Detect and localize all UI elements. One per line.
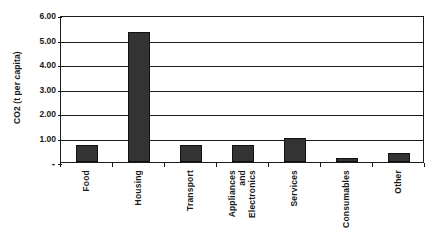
y-axis-tick-labels: -1.002.003.004.005.006.00	[24, 0, 56, 240]
category-label-line: Housing	[133, 170, 143, 205]
category-axis-tick-mark	[372, 163, 373, 167]
bar-slot	[321, 17, 373, 162]
category-axis-tick-mark	[164, 163, 165, 167]
bar-slot	[165, 17, 217, 162]
y-axis-tick-label: 2.00	[24, 109, 56, 119]
category-label-line: Electronics	[247, 170, 257, 218]
bars-layer	[61, 17, 423, 162]
category-label: Housing	[133, 170, 143, 238]
bar[interactable]	[388, 153, 410, 162]
category-label: AppliancesandElectronics	[227, 170, 257, 238]
y-axis-tick-label: 1.00	[24, 134, 56, 144]
bar-slot	[217, 17, 269, 162]
bar-slot	[113, 17, 165, 162]
category-axis-tick-mark	[60, 163, 61, 167]
bar[interactable]	[284, 138, 306, 163]
y-axis-tick-label: 5.00	[24, 36, 56, 46]
category-label-line: Services	[289, 170, 299, 207]
bar[interactable]	[76, 145, 98, 162]
category-axis-tick-marks	[60, 163, 424, 168]
category-label: Services	[289, 170, 299, 238]
bar[interactable]	[232, 145, 254, 162]
category-axis-tick-mark	[320, 163, 321, 167]
category-label-line: Transport	[185, 170, 195, 211]
category-label: Transport	[185, 170, 195, 238]
plot-area	[60, 16, 424, 163]
category-label-line: Food	[81, 170, 91, 192]
bar[interactable]	[180, 145, 202, 162]
category-label-line: and	[237, 170, 247, 186]
category-label: Consumables	[341, 170, 351, 238]
category-label: Other	[393, 170, 403, 238]
bar[interactable]	[128, 32, 150, 162]
y-axis-tick-label: -	[23, 158, 56, 169]
category-axis-tick-mark	[112, 163, 113, 167]
y-axis-tick-label: 3.00	[24, 85, 56, 95]
bar-slot	[269, 17, 321, 162]
bar-chart-figure: CO2 (t per capita) -1.002.003.004.005.00…	[0, 0, 436, 240]
bar[interactable]	[336, 158, 358, 162]
y-axis-title: CO2 (t per capita)	[10, 18, 24, 158]
y-axis-tick-label: 4.00	[24, 60, 56, 70]
category-label-line: Appliances	[227, 170, 237, 217]
category-axis-labels: FoodHousingTransportAppliancesandElectro…	[60, 170, 424, 240]
category-axis-tick-mark	[216, 163, 217, 167]
category-label-line: Consumables	[341, 170, 351, 228]
category-axis-tick-mark	[268, 163, 269, 167]
y-axis-tick-label: 6.00	[24, 11, 56, 21]
category-axis-tick-mark	[424, 163, 425, 167]
category-label: Food	[81, 170, 91, 238]
category-label-line: Other	[393, 170, 403, 194]
bar-slot	[61, 17, 113, 162]
bar-slot	[373, 17, 425, 162]
